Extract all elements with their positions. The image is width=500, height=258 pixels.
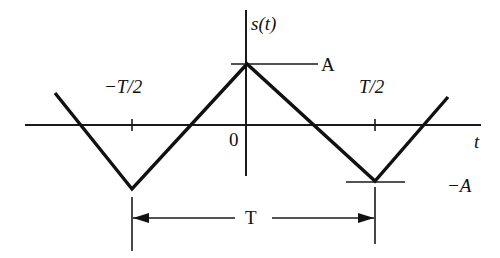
amplitude-neg-label: −A xyxy=(447,175,472,196)
triangle-wave-diagram: s(t) A −T/2 T/2 0 t −A T xyxy=(0,0,500,258)
pos-half-period-label: T/2 xyxy=(359,76,385,97)
y-axis-label: s(t) xyxy=(251,13,276,35)
x-axis-label: t xyxy=(474,131,480,152)
period-label: T xyxy=(245,207,257,228)
arrowhead-right-icon xyxy=(358,213,374,223)
amplitude-pos-label: A xyxy=(321,54,335,75)
neg-half-period-label: −T/2 xyxy=(104,76,143,97)
arrowhead-left-icon xyxy=(133,213,149,223)
origin-label: 0 xyxy=(229,129,239,150)
